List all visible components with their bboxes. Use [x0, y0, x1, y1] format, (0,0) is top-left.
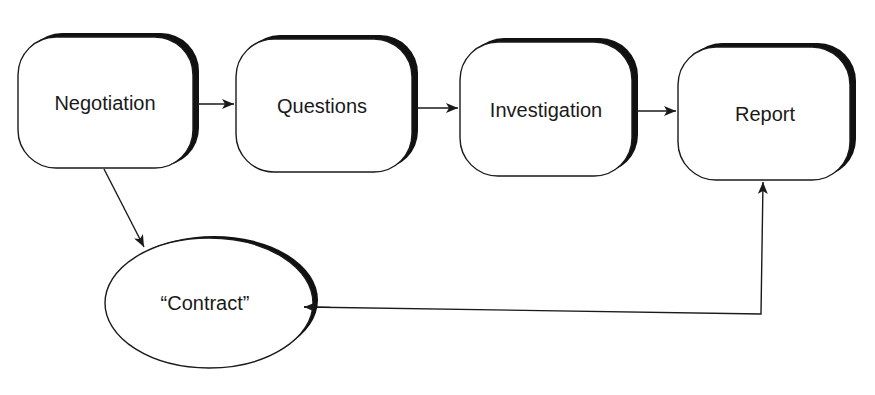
node-label-contract: “Contract” [161, 292, 250, 314]
node-report: Report [678, 43, 856, 180]
edge-negotiation-to-contract [104, 169, 144, 247]
process-flow-diagram: Negotiation Questions Investigation Repo… [0, 0, 875, 395]
edge-contract-to-report [304, 182, 763, 314]
node-label-questions: Questions [277, 95, 367, 117]
node-label-investigation: Investigation [490, 99, 602, 121]
node-label-negotiation: Negotiation [54, 92, 155, 114]
node-investigation: Investigation [460, 38, 638, 176]
node-contract: “Contract” [105, 236, 318, 368]
node-questions: Questions [236, 35, 418, 172]
node-label-report: Report [735, 103, 795, 125]
node-negotiation: Negotiation [18, 33, 199, 168]
